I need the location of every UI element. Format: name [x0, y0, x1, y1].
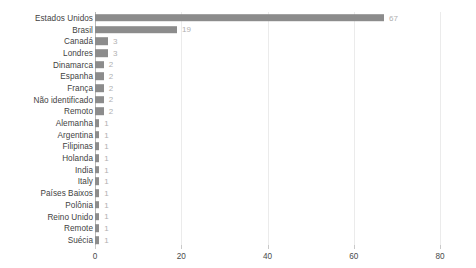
bar-row: Alemanha1 [0, 117, 476, 129]
bar-value-label: 1 [104, 224, 108, 233]
bar[interactable] [95, 96, 104, 104]
bar[interactable] [95, 84, 104, 92]
bar-container: 3 [95, 49, 108, 57]
bar-rows: Estados Unidos67Brasil19Canadá3Londres3D… [0, 12, 476, 246]
bar-value-label: 67 [389, 13, 398, 22]
bar-container: 2 [95, 84, 104, 92]
bar-row: Não identificado2 [0, 94, 476, 106]
bar-row: Brasil19 [0, 24, 476, 36]
bar[interactable] [95, 166, 99, 174]
bar[interactable] [95, 143, 99, 151]
bar-value-label: 1 [104, 212, 108, 221]
category-label: França [67, 83, 93, 92]
bar-container: 1 [95, 154, 99, 162]
bar-row: Canadá3 [0, 35, 476, 47]
bar-container: 2 [95, 61, 104, 69]
bar-chart: Estados Unidos67Brasil19Canadá3Londres3D… [0, 0, 476, 268]
bar-row: Holanda1 [0, 152, 476, 164]
category-label: Holanda [62, 154, 93, 163]
x-tick-label: 0 [93, 252, 98, 261]
bar-value-label: 2 [109, 72, 113, 81]
bar[interactable] [95, 154, 99, 162]
bar-container: 1 [95, 213, 99, 221]
bar[interactable] [95, 61, 104, 69]
bar-value-label: 1 [104, 130, 108, 139]
x-tick-label: 40 [263, 252, 272, 261]
bar-row: Remote1 [0, 222, 476, 234]
bar[interactable] [95, 14, 384, 22]
bar-value-label: 1 [104, 119, 108, 128]
bar-value-label: 19 [182, 25, 191, 34]
bar[interactable] [95, 49, 108, 57]
bar-value-label: 1 [104, 200, 108, 209]
x-tick-mark [440, 245, 441, 249]
bar[interactable] [95, 213, 99, 221]
x-tick-label: 20 [177, 252, 186, 261]
bar[interactable] [95, 224, 99, 232]
bar[interactable] [95, 189, 99, 197]
bar[interactable] [95, 178, 99, 186]
bar-value-label: 2 [109, 107, 113, 116]
x-tick-mark [95, 245, 96, 249]
category-label: Filipinas [63, 142, 93, 151]
category-label: Estados Unidos [35, 13, 93, 22]
bar-container: 1 [95, 143, 99, 151]
bar-row: Polônia1 [0, 199, 476, 211]
category-label: Reino Unido [47, 212, 93, 221]
category-label: Espanha [60, 72, 93, 81]
bar[interactable] [95, 119, 99, 127]
category-label: Remote [64, 224, 93, 233]
bar-container: 2 [95, 96, 104, 104]
bar[interactable] [95, 26, 177, 34]
bar-container: 1 [95, 224, 99, 232]
x-axis: 020406080 [0, 249, 476, 267]
category-label: Alemanha [56, 119, 93, 128]
category-label: Argentina [58, 130, 94, 139]
bar-row: Italy1 [0, 176, 476, 188]
category-label: Londres [63, 48, 93, 57]
x-tick-mark [354, 245, 355, 249]
bar-container: 1 [95, 236, 99, 244]
category-label: Remoto [64, 107, 93, 116]
bar[interactable] [95, 131, 99, 139]
bar-value-label: 2 [109, 83, 113, 92]
bar[interactable] [95, 72, 104, 80]
bar-row: Argentina1 [0, 129, 476, 141]
bar-row: Suécia1 [0, 234, 476, 246]
bar-row: Reino Unido1 [0, 211, 476, 223]
bar-value-label: 1 [104, 154, 108, 163]
bar-value-label: 1 [104, 189, 108, 198]
x-tick-label: 80 [435, 252, 444, 261]
bar[interactable] [95, 108, 104, 116]
bar[interactable] [95, 236, 99, 244]
bar-container: 1 [95, 178, 99, 186]
bar-container: 67 [95, 14, 384, 22]
bar-row: Dinamarca2 [0, 59, 476, 71]
category-label: Não identificado [33, 95, 93, 104]
bar-row: Remoto2 [0, 106, 476, 118]
bar-row: Filipinas1 [0, 141, 476, 153]
bar[interactable] [95, 37, 108, 45]
bar-container: 1 [95, 189, 99, 197]
bar-value-label: 1 [104, 142, 108, 151]
bar-row: India1 [0, 164, 476, 176]
bar-value-label: 1 [104, 177, 108, 186]
category-label: Países Baixos [40, 189, 93, 198]
category-label: Canadá [64, 37, 93, 46]
bar-container: 2 [95, 72, 104, 80]
bar-container: 1 [95, 119, 99, 127]
category-label: Italy [78, 177, 93, 186]
bar-container: 1 [95, 201, 99, 209]
bar-value-label: 2 [109, 95, 113, 104]
bar-container: 19 [95, 26, 177, 34]
bar-container: 2 [95, 108, 104, 116]
bar-value-label: 1 [104, 235, 108, 244]
bar-value-label: 1 [104, 165, 108, 174]
bar[interactable] [95, 201, 99, 209]
bar-row: Países Baixos1 [0, 187, 476, 199]
x-tick-label: 60 [349, 252, 358, 261]
category-label: Polônia [65, 200, 93, 209]
category-label: Brasil [72, 25, 93, 34]
x-tick-mark [181, 245, 182, 249]
bar-row: França2 [0, 82, 476, 94]
